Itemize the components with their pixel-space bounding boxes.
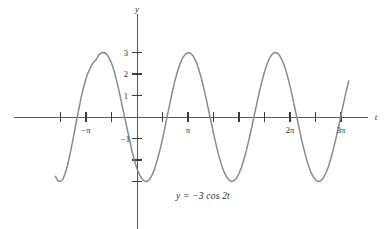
y-axis-labels: 3 2 1 −1 [121,48,130,144]
t-axis-label: t [375,112,378,122]
y-tick-label-minus-1: −1 [121,134,130,144]
y-axis-label: y [134,4,139,14]
figure-container: 3 2 1 −1 −π π 2π 3π y t y = −3 cos 2t [0,0,392,229]
equation-caption: y = −3 cos 2t [175,191,230,201]
x-tick-label-2pi: 2π [286,125,295,135]
x-tick-label-3pi: 3π [337,125,346,135]
x-tick-label-pi: π [186,125,191,135]
y-tick-label-3: 3 [124,48,128,58]
x-tick-label-minus-pi: −π [81,125,91,135]
y-tick-label-1: 1 [124,91,128,101]
y-tick-label-2: 2 [124,69,128,79]
function-plot: 3 2 1 −1 −π π 2π 3π y t y = −3 cos 2t [0,0,392,229]
